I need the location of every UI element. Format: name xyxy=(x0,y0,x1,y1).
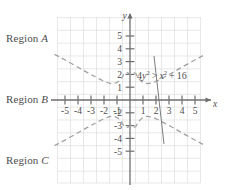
annotation-y-exponent: 2 xyxy=(146,69,149,76)
y-axis-name: y xyxy=(121,11,127,21)
x-axis-arrow xyxy=(206,97,212,102)
x-tick-label: 5 xyxy=(193,106,198,116)
x-tick-label: -4 xyxy=(74,106,82,116)
inequality-annotation: 4y2 > x2 + 16 xyxy=(137,70,187,81)
y-tick-label: 3 xyxy=(117,57,122,67)
y-tick-label: 1 xyxy=(117,83,122,93)
x-tick-label: 4 xyxy=(180,106,185,116)
y-tick-label: -3 xyxy=(114,121,122,131)
annotation-x-exponent: 2 xyxy=(164,69,167,76)
y-tick-label: -4 xyxy=(114,134,122,144)
x-tick-label: 1 xyxy=(141,106,146,116)
annotation-relation-symbol: > xyxy=(152,70,158,81)
annotation-plus-sign: + xyxy=(169,70,175,81)
x-axis-name: x xyxy=(212,99,218,109)
x-tick-label: -3 xyxy=(87,106,95,116)
region-label-b: Region B xyxy=(6,93,48,105)
region-label-b-prefix: Region xyxy=(6,93,41,105)
x-tick-label: -5 xyxy=(61,106,69,116)
axis-arrowheads xyxy=(127,13,211,103)
region-label-c: Region C xyxy=(6,154,49,166)
annotation-constant: 16 xyxy=(177,70,187,81)
y-tick-label: 5 xyxy=(117,31,122,41)
region-label-a: Region A xyxy=(6,32,48,44)
y-tick-label: -5 xyxy=(114,147,122,157)
y-tick-labels: 5 4 3 2 1 -2 -3 -4 -5 xyxy=(114,31,122,156)
x-tick-label: -2 xyxy=(100,106,108,116)
region-label-a-prefix: Region xyxy=(6,32,41,44)
region-label-c-letter: C xyxy=(41,154,48,166)
x-tick-label: 2 xyxy=(154,106,159,116)
region-label-b-letter: B xyxy=(41,93,48,105)
y-axis-arrow xyxy=(127,13,132,19)
axis-lines xyxy=(51,14,211,185)
x-tick-label: 3 xyxy=(167,106,172,116)
y-tick-label: 4 xyxy=(117,44,122,54)
graph-figure: -5 -4 -3 -2 -1 1 2 3 4 5 5 4 3 2 1 -2 -3… xyxy=(0,0,230,190)
region-label-c-prefix: Region xyxy=(6,154,41,166)
region-label-a-letter: A xyxy=(41,32,48,44)
